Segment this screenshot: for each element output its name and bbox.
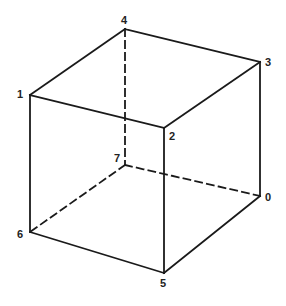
vertex-label-0: 0 xyxy=(265,192,271,203)
vertex-label-1: 1 xyxy=(17,89,23,100)
edge-2-1 xyxy=(30,95,164,128)
vertex-label-5: 5 xyxy=(160,278,166,289)
edge-1-4 xyxy=(30,29,125,95)
vertex-label-6: 6 xyxy=(17,229,23,240)
cube-wireframe xyxy=(0,0,286,306)
edge-6-5 xyxy=(30,232,164,273)
cube-diagram: 01234567 xyxy=(0,0,286,306)
vertex-label-7: 7 xyxy=(114,153,120,164)
edge-5-0 xyxy=(164,196,260,273)
edge-3-2 xyxy=(164,62,260,128)
vertex-label-2: 2 xyxy=(169,131,175,142)
vertex-label-4: 4 xyxy=(121,15,127,26)
vertex-label-3: 3 xyxy=(265,57,271,68)
edge-7-0-hidden xyxy=(125,165,260,196)
edge-7-6-hidden xyxy=(30,165,125,232)
edge-4-3 xyxy=(125,29,260,62)
